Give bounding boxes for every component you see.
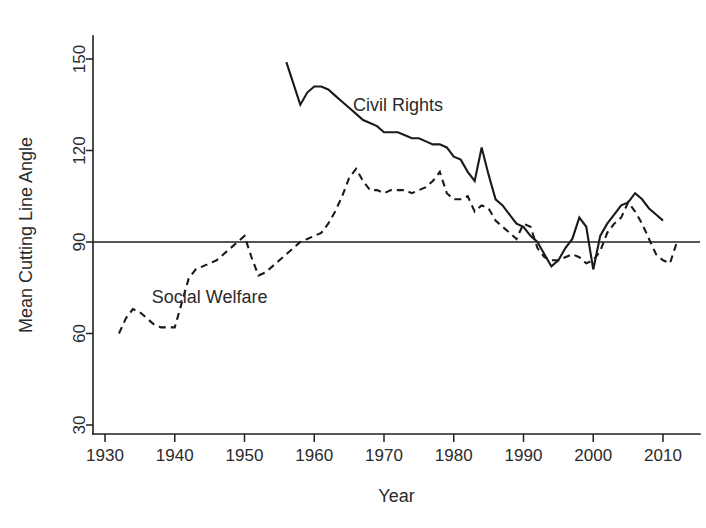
- y-tick-label: 90: [70, 233, 89, 252]
- series-annotations: Civil RightsSocial Welfare: [152, 95, 443, 307]
- y-axis-title: Mean Cutting Line Angle: [16, 137, 36, 333]
- y-tick-label: 120: [70, 136, 89, 164]
- x-tick-label: 1990: [505, 446, 543, 465]
- x-tick-label: 1950: [226, 446, 264, 465]
- y-axis-ticks: 306090120150: [70, 45, 94, 435]
- line-chart-canvas: 306090120150 193019401950196019701980199…: [0, 0, 706, 528]
- series-line-civil-rights: [286, 62, 663, 269]
- x-tick-label: 1980: [435, 446, 473, 465]
- series-line-social-welfare: [119, 169, 677, 334]
- x-tick-label: 2010: [644, 446, 682, 465]
- x-tick-label: 1930: [86, 446, 124, 465]
- x-axis-ticks: 193019401950196019701980199020002010: [86, 434, 682, 465]
- chart-figure: 306090120150 193019401950196019701980199…: [0, 0, 706, 528]
- x-tick-label: 1940: [156, 446, 194, 465]
- x-axis-title: Year: [378, 486, 414, 506]
- series-label-civil-rights: Civil Rights: [353, 95, 443, 115]
- y-tick-label: 60: [70, 324, 89, 343]
- series-label-social-welfare: Social Welfare: [152, 287, 268, 307]
- x-tick-label: 2000: [574, 446, 612, 465]
- y-tick-label: 150: [70, 45, 89, 73]
- x-tick-label: 1960: [295, 446, 333, 465]
- x-tick-label: 1970: [365, 446, 403, 465]
- y-tick-label: 30: [70, 416, 89, 435]
